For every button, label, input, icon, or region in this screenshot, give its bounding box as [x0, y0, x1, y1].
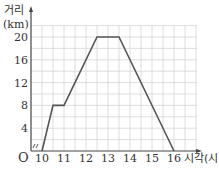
y-tick-label: 16 — [14, 54, 28, 67]
y-tick-label: 20 — [14, 31, 28, 44]
grid — [31, 26, 197, 151]
x-tick-label: 12 — [79, 152, 93, 165]
x-tick-label: 11 — [57, 152, 71, 165]
axes — [29, 6, 202, 153]
x-tick-label: 13 — [101, 152, 115, 165]
y-tick-label: 8 — [21, 99, 28, 112]
tick-labels: 1011121314151648121620 — [14, 31, 181, 165]
x-tick-label: 10 — [35, 152, 49, 165]
y-axis-arrow-icon — [29, 6, 33, 12]
y-axis-label: 거리 — [4, 4, 24, 17]
x-tick-label: 14 — [123, 152, 137, 165]
x-tick-label: 15 — [145, 152, 159, 165]
origin-label: O — [18, 150, 29, 165]
y-tick-label: 12 — [14, 77, 28, 90]
x-tick-label: 16 — [167, 152, 181, 165]
axis-break-icon — [33, 144, 38, 148]
distance-time-chart: 1011121314151648121620 거리 (km) O 시각(시) — [0, 0, 219, 174]
x-axis-label: 시각(시) — [184, 152, 219, 165]
y-axis-unit: (km) — [3, 18, 29, 31]
y-tick-label: 4 — [21, 122, 28, 135]
